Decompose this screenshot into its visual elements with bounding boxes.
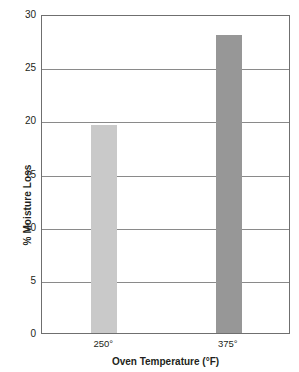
x-axis-tick-labels: 250°375° bbox=[41, 338, 290, 352]
y-axis-tick-labels: 051015202530 bbox=[16, 0, 36, 372]
y-axis-tick-label: 20 bbox=[16, 116, 36, 126]
bar bbox=[216, 35, 242, 333]
y-axis-tick-label: 15 bbox=[16, 170, 36, 180]
y-axis-tick-label: 30 bbox=[16, 10, 36, 20]
y-axis-tick-label: 25 bbox=[16, 63, 36, 73]
y-axis-tick-label: 10 bbox=[16, 223, 36, 233]
y-axis-tick-label: 0 bbox=[16, 329, 36, 339]
gridline bbox=[42, 122, 289, 123]
x-axis-title: Oven Temperature (°F) bbox=[41, 356, 290, 368]
bar bbox=[91, 125, 117, 333]
gridline bbox=[42, 229, 289, 230]
bar-chart: % Moisture Loss 051015202530 250°375° Ov… bbox=[0, 0, 299, 372]
gridline bbox=[42, 176, 289, 177]
gridline bbox=[42, 282, 289, 283]
y-axis-tick-label: 5 bbox=[16, 276, 36, 286]
gridline bbox=[42, 69, 289, 70]
plot-area bbox=[41, 15, 290, 334]
x-axis-tick-label: 375° bbox=[218, 338, 238, 350]
x-axis-tick-label: 250° bbox=[93, 338, 113, 350]
